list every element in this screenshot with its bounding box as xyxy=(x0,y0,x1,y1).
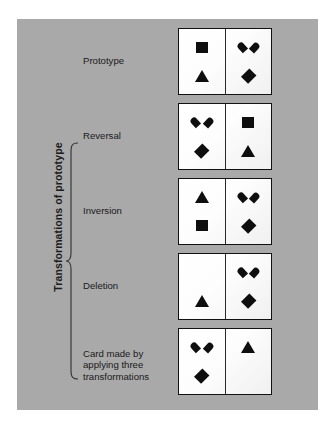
heart-shape xyxy=(195,116,208,128)
card-cell-right-bottom xyxy=(226,360,272,393)
triangle-shape xyxy=(195,295,209,307)
card xyxy=(178,328,272,395)
figure-panel: Transformations of prototype PrototypeRe… xyxy=(17,19,318,410)
triangle-shape xyxy=(195,70,209,82)
heart-shape xyxy=(242,41,255,53)
card-half-left xyxy=(179,179,226,244)
card-cell-left-bottom xyxy=(179,285,225,318)
card-cell-left-bottom xyxy=(179,135,225,168)
vertical-axis-label: Transformations of prototype xyxy=(52,97,64,337)
card xyxy=(178,178,272,245)
triangle-shape xyxy=(241,145,255,157)
row-label-reversal: Reversal xyxy=(83,130,187,141)
diamond-shape xyxy=(194,368,209,383)
heart-shape xyxy=(242,191,255,203)
row-label-inversion: Inversion xyxy=(83,205,187,216)
row-label-deletion: Deletion xyxy=(83,280,187,291)
heart-shape xyxy=(195,341,208,353)
square-shape xyxy=(242,117,254,128)
heart-shape xyxy=(242,266,255,278)
card xyxy=(178,103,272,170)
card-half-right xyxy=(226,254,272,319)
card-cell-right-bottom xyxy=(226,285,272,318)
square-shape xyxy=(196,42,208,53)
card-cell-left-bottom xyxy=(179,210,225,243)
row-label-line: transformations xyxy=(83,371,187,382)
diamond-shape xyxy=(241,68,256,83)
triangle-shape xyxy=(241,341,255,353)
brace-bracket xyxy=(64,141,82,381)
row-label-card: Card made byapplying threetransformation… xyxy=(83,348,187,382)
row-label-line: Inversion xyxy=(83,205,187,216)
card-cell-right-bottom xyxy=(226,60,272,93)
card-half-right xyxy=(226,179,272,244)
diamond-shape xyxy=(194,143,209,158)
card-cell-left-bottom xyxy=(179,360,225,393)
card-half-left xyxy=(179,29,226,94)
card-half-left xyxy=(179,104,226,169)
diamond-shape xyxy=(241,218,256,233)
card xyxy=(178,253,272,320)
card-half-right xyxy=(226,104,272,169)
card-half-left xyxy=(179,329,226,394)
row-label-line: Reversal xyxy=(83,130,187,141)
diamond-shape xyxy=(241,293,256,308)
square-shape xyxy=(196,220,208,231)
card-half-left xyxy=(179,254,226,319)
card-cell-right-bottom xyxy=(226,135,272,168)
card-half-right xyxy=(226,329,272,394)
card-cell-left-bottom xyxy=(179,60,225,93)
row-label-prototype: Prototype xyxy=(83,55,187,66)
card-cell-right-bottom xyxy=(226,210,272,243)
row-label-line: Deletion xyxy=(83,280,187,291)
row-label-line: applying three xyxy=(83,359,187,370)
card-half-right xyxy=(226,29,272,94)
triangle-shape xyxy=(195,191,209,203)
row-label-line: Prototype xyxy=(83,55,187,66)
card xyxy=(178,28,272,95)
row-label-line: Card made by xyxy=(83,348,187,359)
